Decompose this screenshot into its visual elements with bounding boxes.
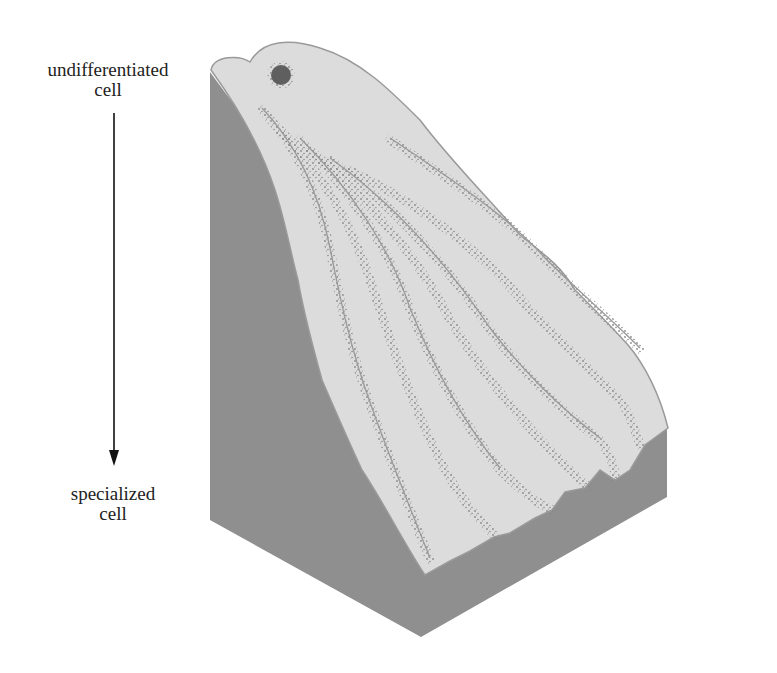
down-arrow-icon bbox=[109, 113, 119, 466]
landscape-illustration bbox=[0, 0, 777, 673]
epigenetic-landscape-diagram: undifferentiated cell specialized cell bbox=[0, 0, 777, 673]
undifferentiated-cell-ball-icon bbox=[270, 64, 293, 87]
